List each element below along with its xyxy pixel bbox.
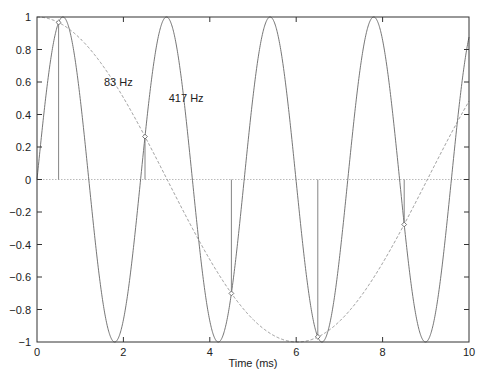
y-tick-label: 0.6 <box>16 76 31 88</box>
sample-marker <box>229 291 234 296</box>
y-tick-label: 0.4 <box>16 109 31 121</box>
y-tick-label: −0.8 <box>9 304 31 316</box>
sample-marker <box>402 222 407 227</box>
annotation-label: 83 Hz <box>104 76 133 88</box>
y-tick-label: 0.2 <box>16 141 31 153</box>
y-tick-label: −0.4 <box>9 239 31 251</box>
x-tick-label: 10 <box>463 346 475 358</box>
y-tick-label: 1 <box>25 11 31 23</box>
x-tick-label: 2 <box>120 346 126 358</box>
y-tick-label: 0.8 <box>16 44 31 56</box>
chart: 0246810 10.80.60.40.20−0.2−0.4−0.6−0.8−1… <box>0 0 486 382</box>
annotation-label: 417 Hz <box>169 92 204 104</box>
y-tick-label: −1 <box>18 336 31 348</box>
y-tick-label: −0.2 <box>9 206 31 218</box>
sample-marker <box>56 20 61 25</box>
x-axis-label: Time (ms) <box>228 357 277 369</box>
sample-marker <box>315 334 320 339</box>
y-tick-label: 0 <box>25 174 31 186</box>
sample-marker <box>143 134 148 139</box>
annotations: 83 Hz417 Hz <box>104 76 204 104</box>
x-tick-label: 8 <box>380 346 386 358</box>
x-tick-label: 4 <box>207 346 213 358</box>
x-axis-ticks: 0246810 <box>34 17 475 358</box>
x-tick-label: 6 <box>293 346 299 358</box>
y-tick-label: −0.6 <box>9 271 31 283</box>
sample-stems <box>56 20 406 339</box>
x-tick-label: 0 <box>34 346 40 358</box>
